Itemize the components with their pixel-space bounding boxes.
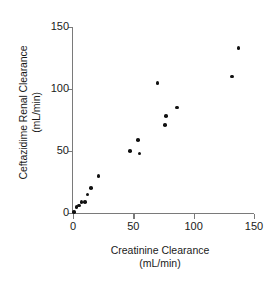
- x-tick-mark: [133, 214, 134, 219]
- x-tick-label: 50: [127, 220, 139, 232]
- y-tick-label: 50: [57, 144, 69, 156]
- data-point: [72, 210, 76, 214]
- data-point: [97, 174, 101, 178]
- x-axis-title-line1: Creatinine Clearance: [111, 244, 210, 256]
- x-axis-title-line2: (mL/min): [60, 257, 260, 270]
- data-point: [230, 75, 234, 79]
- data-point: [136, 138, 140, 142]
- y-axis-title-line2: (mL/min): [30, 46, 43, 180]
- y-tick-label: 150: [51, 20, 69, 32]
- data-point: [138, 152, 142, 156]
- data-point: [237, 46, 241, 50]
- x-axis-title: Creatinine Clearance (mL/min): [60, 244, 260, 270]
- data-point: [164, 114, 168, 118]
- data-point: [156, 81, 160, 85]
- x-tick-label: 0: [70, 220, 76, 232]
- x-tick-mark: [254, 214, 255, 219]
- y-axis-line: [72, 27, 73, 214]
- data-point: [86, 193, 90, 197]
- data-point: [175, 106, 179, 110]
- x-axis-line: [72, 213, 254, 214]
- data-point: [89, 186, 93, 190]
- y-axis-title: Ceftazidime Renal Clearance (mL/min): [18, 46, 43, 180]
- y-tick-label: 100: [51, 82, 69, 94]
- x-tick-label: 100: [184, 220, 202, 232]
- x-tick-mark: [73, 214, 74, 219]
- data-point: [128, 149, 132, 153]
- scatter-plot-figure: Ceftazidime Renal Clearance (mL/min) 050…: [0, 0, 271, 289]
- y-axis-title-line1: Ceftazidime Renal Clearance: [18, 46, 30, 180]
- y-axis-title-wrapper: Ceftazidime Renal Clearance (mL/min): [0, 0, 60, 225]
- data-point: [163, 123, 167, 127]
- y-tick-label: 0: [63, 206, 69, 218]
- data-point: [83, 200, 87, 204]
- plot-area: 050100150 050100150: [73, 27, 254, 213]
- data-point: [77, 204, 81, 208]
- x-tick-label: 150: [245, 220, 263, 232]
- x-tick-mark: [194, 214, 195, 219]
